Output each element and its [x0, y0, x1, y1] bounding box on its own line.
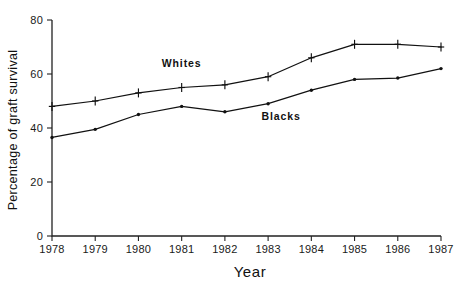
x-tick-label: 1986: [385, 243, 410, 255]
series-label-whites: Whites: [162, 57, 202, 69]
data-markers-group: [49, 40, 444, 139]
data-point-marker: [265, 72, 271, 81]
x-axis-title: Year: [234, 263, 267, 280]
data-point-marker: [395, 40, 401, 49]
y-tick-label: 20: [30, 176, 43, 188]
axes-group: [52, 20, 441, 236]
x-tick-label: 1984: [299, 243, 324, 255]
data-point-marker: [438, 43, 444, 52]
series-annotations-group: WhitesBlacks: [162, 57, 301, 122]
x-tick-label: 1983: [255, 243, 280, 255]
x-tick-label: 1987: [428, 243, 453, 255]
data-point-marker: [94, 128, 97, 131]
x-tick-label: 1978: [39, 243, 64, 255]
axis-lines: [52, 20, 441, 236]
data-point-marker: [266, 102, 269, 105]
series-line-whites: [52, 44, 441, 106]
x-tick-label: 1979: [83, 243, 108, 255]
data-point-marker: [351, 40, 357, 49]
x-tick-label: 1985: [342, 243, 367, 255]
y-axis-ticks: [47, 20, 52, 236]
line-chart-svg: 020406080 197819791980198119821983198419…: [0, 0, 456, 285]
data-point-marker: [439, 67, 442, 70]
y-tick-label: 0: [37, 230, 43, 242]
y-tick-label: 60: [30, 68, 43, 80]
data-point-marker: [178, 83, 184, 92]
data-point-marker: [180, 105, 183, 108]
data-point-marker: [50, 136, 53, 139]
data-point-marker: [92, 97, 98, 106]
chart-container: 020406080 197819791980198119821983198419…: [0, 0, 456, 285]
data-point-marker: [310, 89, 313, 92]
data-point-marker: [222, 80, 228, 89]
data-series-group: [52, 44, 441, 137]
data-point-marker: [223, 110, 226, 113]
x-axis-tick-labels: 1978197919801981198219831984198519861987: [39, 243, 453, 255]
x-tick-label: 1981: [169, 243, 194, 255]
data-point-marker: [135, 88, 141, 97]
x-tick-label: 1982: [212, 243, 237, 255]
data-point-marker: [396, 76, 399, 79]
series-line-blacks: [52, 69, 441, 138]
x-tick-label: 1980: [126, 243, 151, 255]
data-point-marker: [353, 78, 356, 81]
data-point-marker: [137, 113, 140, 116]
series-label-blacks: Blacks: [261, 110, 300, 122]
x-axis-ticks: [52, 236, 441, 241]
data-point-marker: [49, 102, 55, 111]
y-tick-label: 40: [30, 122, 43, 134]
y-tick-label: 80: [30, 14, 43, 26]
y-axis-title: Percentage of graft survival: [6, 50, 20, 211]
data-point-marker: [308, 53, 314, 62]
y-axis-tick-labels: 020406080: [30, 14, 43, 242]
